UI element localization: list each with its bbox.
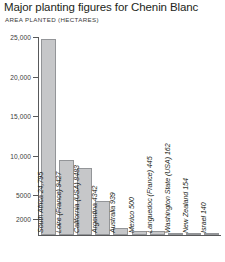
y-tick: 10,000 [33,156,38,157]
bar [168,233,183,235]
y-tick: 15,000 [33,116,38,117]
bar-label: Argentina 4342 [91,186,99,233]
y-tick-label: 15,000 [10,113,31,120]
bar-label: Loire (France) 9427 [55,172,63,233]
chart-figure: Major planting figures for Chenin Blanc … [0,0,225,262]
chart-subtitle: AREA PLANTED (HECTARES) [5,16,99,23]
bar-series: South Africa 24,795Loire (France) 9427Ca… [39,37,221,236]
bar-label: Washington State (USA) 162 [164,143,172,233]
y-tick-label: 25,000 [10,34,31,41]
bar-label: South Africa 24,795 [37,172,45,233]
y-tick-label: 2000 [16,216,31,223]
plot-area: 2000500010,00015,00020,00025,000 South A… [38,37,221,236]
bar-label: Israel 140 [200,202,208,233]
y-tick-label: 20,000 [10,73,31,80]
bar-label: Mexico 500 [128,197,136,233]
bar-label: Australia 939 [109,192,117,233]
bar-label: California (USA) 8483 [73,165,81,233]
chart-title: Major planting figures for Chenin Blanc [4,1,198,13]
y-tick: 20,000 [33,77,38,78]
bar-label: New Zealand 154 [182,178,190,233]
y-tick-label: 5000 [16,192,31,199]
bar [204,233,219,235]
y-tick-label: 10,000 [10,152,31,159]
bar-label: Languedoc (France) 445 [146,156,154,233]
y-tick: 25,000 [33,37,38,38]
bar [186,233,201,235]
